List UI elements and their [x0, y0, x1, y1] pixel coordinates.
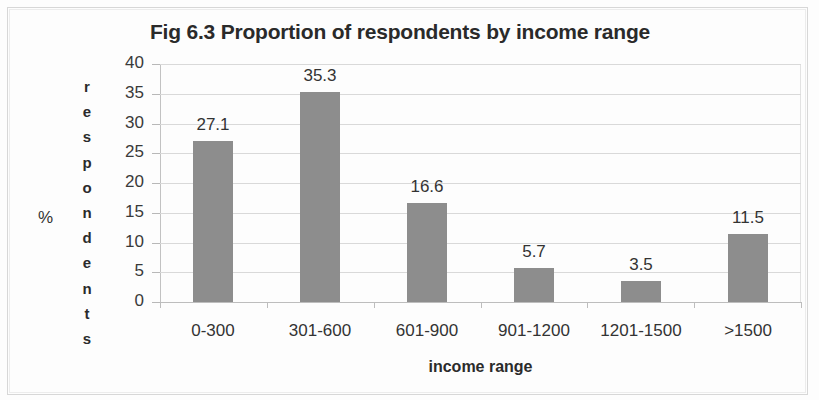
- chart-page: Fig 6.3 Proportion of respondents by inc…: [0, 0, 819, 400]
- y-axis-tick-label: 20: [104, 172, 144, 192]
- x-axis-category-label: 0-300: [153, 321, 273, 341]
- x-axis-tickmark: [374, 302, 375, 308]
- y-axis-tick-label: 25: [104, 142, 144, 162]
- bar: [514, 268, 554, 302]
- x-axis-category-label: 1201-1500: [581, 321, 701, 341]
- x-axis-title: income range: [160, 358, 801, 376]
- y-axis-tickmark: [152, 64, 160, 65]
- gridline: [160, 183, 801, 184]
- bar-value-label: 11.5: [708, 208, 788, 228]
- y-axis-tick-label: 35: [104, 83, 144, 103]
- x-axis-category-label: 601-900: [367, 321, 487, 341]
- y-axis-tick-label: 0: [104, 291, 144, 311]
- bar: [407, 203, 447, 302]
- gridline: [160, 124, 801, 125]
- y-axis-tickmark: [152, 243, 160, 244]
- y-axis-tickmark: [152, 153, 160, 154]
- y-axis-tick-label: 15: [104, 202, 144, 222]
- x-axis-tickmark: [160, 302, 161, 308]
- y-axis-tick-label: 5: [104, 261, 144, 281]
- bar-value-label: 35.3: [280, 66, 360, 86]
- bar-value-label: 5.7: [494, 242, 574, 262]
- bar-value-label: 16.6: [387, 177, 467, 197]
- x-axis-tickmark: [694, 302, 695, 308]
- gridline: [160, 243, 801, 244]
- y-axis-tickmark: [152, 302, 160, 303]
- y-axis-tickmark: [152, 183, 160, 184]
- y-axis-tick-label: 30: [104, 113, 144, 133]
- x-axis-tickmark: [587, 302, 588, 308]
- y-axis-tickmark: [152, 124, 160, 125]
- gridline: [160, 272, 801, 273]
- bar-value-label: 27.1: [173, 115, 253, 135]
- y-axis-tickmark: [152, 213, 160, 214]
- x-axis-category-label: >1500: [688, 321, 808, 341]
- gridline: [160, 64, 801, 65]
- y-axis-tickmark: [152, 272, 160, 273]
- x-axis-tickmark: [267, 302, 268, 308]
- bar: [300, 92, 340, 302]
- x-axis-category-label: 301-600: [260, 321, 380, 341]
- gridline: [160, 94, 801, 95]
- gridline: [160, 153, 801, 154]
- bar-value-label: 3.5: [601, 255, 681, 275]
- y-axis-tickmark: [152, 94, 160, 95]
- y-axis-tick-label: 10: [104, 232, 144, 252]
- bar: [728, 234, 768, 302]
- y-axis-tick-label: 40: [104, 53, 144, 73]
- x-axis-category-label: 901-1200: [474, 321, 594, 341]
- plot-area: 0510152025303540 27.135.316.65.73.511.5 …: [0, 0, 819, 400]
- x-axis-tickmark: [481, 302, 482, 308]
- bar: [193, 141, 233, 302]
- x-axis-tickmark: [801, 302, 802, 308]
- bar: [621, 281, 661, 302]
- gridline: [160, 213, 801, 214]
